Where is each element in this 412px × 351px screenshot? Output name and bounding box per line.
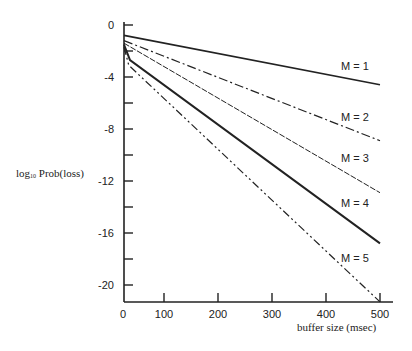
y-tick-label: 0 [108, 19, 114, 31]
line-chart: 0-4-8-12-16-200100200300400500 M = 1M = … [0, 0, 412, 351]
x-tick-label: 200 [209, 308, 227, 320]
y-tick-label: -4 [104, 71, 114, 83]
y-axis-label-base: log [16, 167, 31, 179]
y-axis-label-rest: Prob(loss) [36, 167, 84, 180]
y-tick-label: -12 [98, 175, 114, 187]
series-label-m5: M = 5 [341, 252, 369, 264]
x-tick-label: 300 [263, 308, 281, 320]
y-tick-label: -20 [98, 279, 114, 291]
series-labels: M = 1M = 2M = 3M = 4M = 5 [341, 60, 369, 264]
series-line-m4 [124, 45, 380, 244]
y-tick-label: -8 [104, 123, 114, 135]
series-label-m4: M = 4 [341, 197, 369, 209]
x-tick-label: 0 [120, 308, 126, 320]
series-line-m2 [124, 41, 380, 141]
series-label-m1: M = 1 [341, 60, 369, 72]
series-label-m3: M = 3 [341, 152, 369, 164]
x-tick-label: 400 [317, 308, 335, 320]
x-tick-label: 100 [155, 308, 173, 320]
x-tick-label: 500 [371, 308, 389, 320]
x-axis-label: buffer size (msec) [297, 321, 377, 334]
series-label-m2: M = 2 [341, 111, 369, 123]
y-axis-label: log10 Prob(loss) [16, 167, 84, 180]
y-tick-label: -16 [98, 227, 114, 239]
